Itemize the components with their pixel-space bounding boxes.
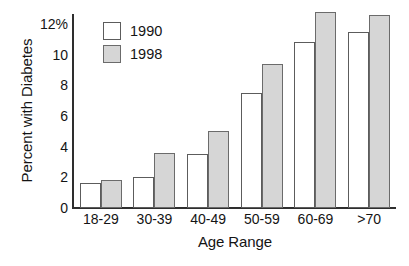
bar-40-49-1998 — [208, 131, 229, 208]
bar-group — [181, 14, 235, 208]
bar-60-69-1998 — [315, 12, 336, 208]
bar-30-39-1990 — [133, 177, 154, 208]
y-axis-tick-labels: 024681012% — [26, 0, 68, 266]
bar->70-1998 — [369, 15, 390, 208]
bar-chart: Percent with Diabetes 024681012% 18-2930… — [0, 0, 409, 266]
y-axis-tick-label: 4 — [30, 139, 68, 155]
bar-30-39-1998 — [154, 153, 175, 208]
legend-item: 1990 — [103, 20, 162, 41]
x-axis-title: Age Range — [74, 233, 396, 250]
chart-legend: 19901998 — [103, 20, 162, 66]
bar-60-69-1990 — [294, 42, 315, 208]
y-axis-tick-label: 6 — [30, 108, 68, 124]
y-axis-tick-label: 0 — [30, 200, 68, 216]
y-axis-tick-label: 2 — [30, 169, 68, 185]
bar-group — [342, 14, 396, 208]
y-axis-tick-label: 8 — [30, 77, 68, 93]
y-axis-tick-label: 12% — [30, 16, 68, 32]
bar->70-1990 — [348, 32, 369, 208]
gray-square-swatch — [103, 45, 121, 63]
bar-40-49-1990 — [187, 154, 208, 208]
bar-group — [289, 14, 343, 208]
bar-50-59-1990 — [241, 93, 262, 208]
bar-50-59-1998 — [262, 64, 283, 208]
bar-18-29-1998 — [101, 180, 122, 208]
x-axis-tick-label: 40-49 — [190, 211, 226, 227]
white-square-swatch — [103, 22, 121, 40]
x-axis-tick-label: 60-69 — [298, 211, 334, 227]
x-axis-tick-label: 18-29 — [83, 211, 119, 227]
legend-item: 1998 — [103, 43, 162, 64]
x-axis-tick-label: >70 — [357, 211, 381, 227]
legend-label: 1998 — [130, 46, 162, 62]
x-axis-tick-label: 30-39 — [137, 211, 173, 227]
bar-group — [235, 14, 289, 208]
y-axis-tick-label: 10 — [30, 47, 68, 63]
x-axis-tick-label: 50-59 — [244, 211, 280, 227]
bar-18-29-1990 — [80, 183, 101, 208]
x-axis-tick-labels: 18-2930-3940-4950-5960-69>70 — [74, 211, 396, 233]
legend-label: 1990 — [130, 23, 162, 39]
